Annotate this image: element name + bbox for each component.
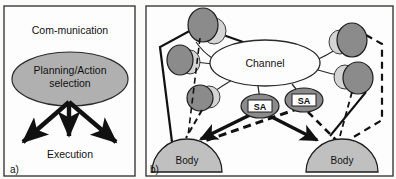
- sa-left-label: SA: [254, 102, 267, 112]
- node-low-right: [343, 62, 373, 94]
- sa-right-label: SA: [298, 96, 311, 106]
- panel-a: Com-munication Planning/Action selection…: [4, 6, 135, 176]
- communication-label: Com-munication: [32, 24, 109, 36]
- execution-label: Execution: [47, 148, 93, 160]
- body-left-label: Body: [176, 155, 199, 166]
- body-right-label: Body: [331, 155, 354, 166]
- planning-label-line1: Planning/Action: [34, 64, 107, 76]
- panel-b: Channel SA SA Body Body b): [146, 6, 393, 176]
- panel-b-caption: b): [150, 164, 159, 175]
- node-mid-left: [167, 45, 193, 75]
- node-top-right: [337, 23, 367, 57]
- figure-root: Com-munication Planning/Action selection…: [0, 0, 396, 179]
- panel-a-caption: a): [10, 164, 19, 175]
- diagram-svg: Com-munication Planning/Action selection…: [0, 0, 396, 179]
- channel-label: Channel: [245, 57, 284, 69]
- planning-label-line2: selection: [49, 77, 91, 89]
- node-top-left: [188, 8, 218, 42]
- node-low-left: [187, 85, 213, 111]
